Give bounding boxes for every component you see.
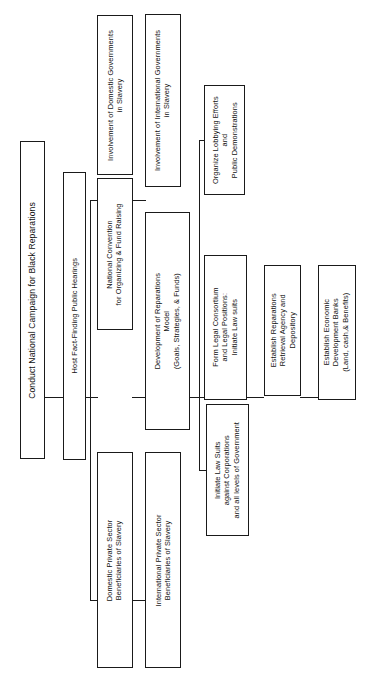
node-domestic-government-involvement[interactable]: Involvement of Domestic Governmentsin Sl… — [97, 15, 133, 175]
node-hearings-label: Host Fact-Finding Public Hearings — [70, 258, 79, 373]
node-root-label: Conduct National Campaign for Black Repa… — [27, 202, 38, 399]
node-domestic-private-sector-label: Domestic Private SectorBeneficiaries of … — [106, 519, 125, 601]
connector-domestic-gov-to-international-gov — [132, 200, 146, 201]
node-reparations-model[interactable]: Development of ReparationsModel(Goals, S… — [145, 212, 190, 430]
connector-spine-column5 — [199, 140, 200, 470]
node-domestic-government-involvement-label: Involvement of Domestic Governmentsin Sl… — [106, 30, 125, 161]
node-initiate-law-suits-label: Initiate Law Suitsagainst Corporationsan… — [213, 422, 241, 518]
connector-spine-column3 — [90, 200, 91, 600]
node-reparations-retrieval-agency[interactable]: Establish ReparationsRetrieval Agency an… — [264, 265, 301, 396]
node-reparations-retrieval-agency-label: Establish ReparationsRetrieval Agency an… — [268, 294, 296, 368]
node-national-convention-label: National Conventionfor Organizing & Fund… — [106, 203, 125, 305]
node-international-government-involvement-label: Involvement of International Governments… — [154, 30, 173, 171]
connector-convention-to-model — [132, 397, 146, 398]
connector-root-to-hearings — [45, 397, 64, 398]
node-legal-consortium[interactable]: Form Legal Consortiumand Legal Positions… — [204, 255, 247, 400]
node-international-government-involvement[interactable]: Involvement of International Governments… — [145, 14, 181, 187]
connector-domestic-private-to-international-private — [132, 600, 146, 601]
node-root[interactable]: Conduct National Campaign for Black Repa… — [20, 141, 45, 459]
connector-spine-to-law-suits — [199, 470, 206, 471]
node-lobbying-efforts-label: Organize Lobbying EffortsandPublic Demon… — [210, 96, 238, 184]
node-legal-consortium-label: Form Legal Consortiumand Legal Positions… — [211, 288, 239, 367]
node-lobbying-efforts[interactable]: Organize Lobbying EffortsandPublic Demon… — [204, 85, 245, 195]
node-economic-development-banks-label: Establish EconomicDevelopment Banks(Land… — [323, 293, 351, 372]
node-reparations-model-label: Development of ReparationsModel(Goals, S… — [153, 273, 181, 369]
node-hearings[interactable]: Host Fact-Finding Public Hearings — [63, 172, 86, 460]
node-national-convention[interactable]: National Conventionfor Organizing & Fund… — [97, 178, 133, 330]
node-initiate-law-suits[interactable]: Initiate Law Suitsagainst Corporationsan… — [206, 404, 249, 536]
node-economic-development-banks[interactable]: Establish EconomicDevelopment Banks(Land… — [318, 265, 356, 400]
connector-spine-to-convention — [90, 397, 98, 398]
node-international-private-sector[interactable]: International Private SectorBeneficiarie… — [145, 452, 181, 668]
node-international-private-sector-label: International Private SectorBeneficiarie… — [154, 514, 173, 606]
connector-legal-consortium-to-retrieval-agency — [247, 397, 264, 398]
connector-retrieval-agency-to-development-banks — [300, 397, 318, 398]
node-domestic-private-sector[interactable]: Domestic Private SectorBeneficiaries of … — [97, 452, 133, 668]
flowchart-canvas: Conduct National Campaign for Black Repa… — [0, 0, 390, 682]
